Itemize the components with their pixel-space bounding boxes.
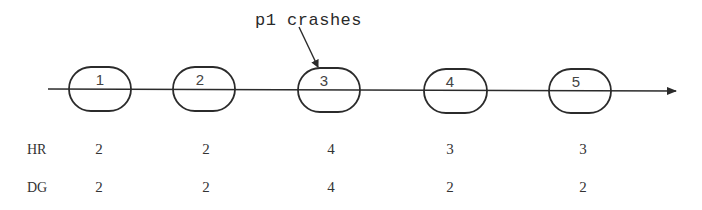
hr-value-round-1: 2 — [95, 141, 103, 158]
round-number-5: 5 — [572, 73, 580, 90]
dg-value-round-4: 2 — [446, 179, 454, 196]
dg-value-round-5: 2 — [579, 179, 587, 196]
dg-value-round-3: 4 — [327, 179, 335, 196]
hr-value-round-4: 3 — [446, 141, 454, 158]
crash-annotation-label: p1 crashes — [255, 11, 362, 30]
crash-pointer-arrow — [299, 27, 318, 67]
round-number-4: 4 — [446, 73, 454, 90]
round-number-3: 3 — [320, 72, 328, 89]
dg-value-round-1: 2 — [95, 179, 103, 196]
hr-value-round-2: 2 — [202, 141, 210, 158]
time-axis-arrow — [48, 89, 676, 91]
row-label-hr: HR — [27, 142, 46, 158]
timeline-diagram — [0, 0, 702, 210]
round-number-1: 1 — [96, 71, 104, 88]
hr-value-round-3: 4 — [327, 141, 335, 158]
round-number-2: 2 — [196, 71, 204, 88]
dg-value-round-2: 2 — [202, 179, 210, 196]
hr-value-round-5: 3 — [579, 141, 587, 158]
row-label-dg: DG — [27, 180, 47, 196]
